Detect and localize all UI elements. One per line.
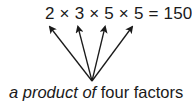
caption: a product of four factors — [9, 83, 183, 102]
caption-plain: four factors — [96, 83, 183, 101]
caption-italic: a product of — [9, 83, 96, 101]
arrow-1 — [50, 27, 92, 81]
